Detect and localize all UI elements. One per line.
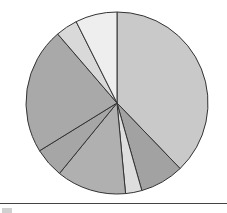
pie-chart: [0, 0, 227, 203]
legend-swatch: [2, 208, 12, 213]
legend-divider: [0, 203, 227, 204]
